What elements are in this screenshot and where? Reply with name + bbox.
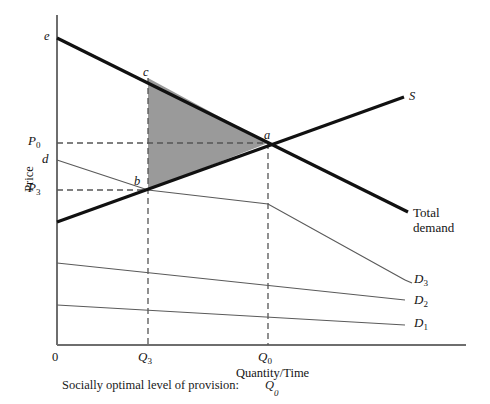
curve-label-total-demand: Total demand <box>413 206 454 235</box>
economics-diagram: Price P0 d P3 0 Q3 Q0 Quantity/Time e c … <box>0 0 490 404</box>
point-label-c: c <box>143 65 149 79</box>
curve-label-d3: D3 <box>414 272 428 287</box>
plot-canvas <box>0 0 490 404</box>
total-demand-line-2: demand <box>413 221 454 236</box>
caption-text: Socially optimal level of provision: <box>62 378 239 392</box>
point-label-b: b <box>134 174 140 188</box>
leader-d3 <box>405 280 412 283</box>
origin-label: 0 <box>52 350 58 364</box>
curve-total-demand <box>57 38 408 212</box>
y-axis-title: Price <box>22 144 36 214</box>
curve-supply <box>57 97 404 222</box>
figure-caption: Socially optimal level of provision:Q0 <box>62 378 279 395</box>
curve-label-d1: D1 <box>414 316 428 331</box>
curve-label-supply: S <box>409 89 415 103</box>
y-tick-d: d <box>42 152 49 167</box>
y-tick-p0: P0 <box>28 134 40 149</box>
x-tick-q0: Q0 <box>258 350 272 365</box>
y-tick-p3: P3 <box>28 181 40 196</box>
curve-d2 <box>57 263 405 300</box>
total-demand-line-1: Total <box>413 206 454 221</box>
point-label-a: a <box>264 128 270 142</box>
caption-value: Q0 <box>265 378 279 392</box>
curve-label-d2: D2 <box>414 293 428 308</box>
curve-d1 <box>57 305 405 325</box>
x-tick-q3: Q3 <box>138 350 152 365</box>
point-label-e: e <box>44 29 50 43</box>
curve-d3 <box>57 160 405 280</box>
